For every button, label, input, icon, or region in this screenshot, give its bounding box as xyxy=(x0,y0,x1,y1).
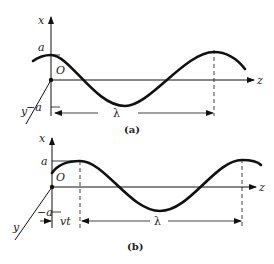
diagram-svg: x z y O a −a λ (a) x z y xyxy=(0,0,274,264)
wavelength-label-b: λ xyxy=(154,215,161,228)
z-axis-label-b: z xyxy=(258,181,265,194)
origin-label-a: O xyxy=(56,64,65,77)
origin-label-b: O xyxy=(56,171,65,184)
x-axis-label-a: x xyxy=(38,14,45,27)
wavelength-label-a: λ xyxy=(113,107,120,120)
z-axis-label-a: z xyxy=(256,74,263,87)
caption-a: (a) xyxy=(124,124,140,135)
shift-label-b: vt xyxy=(60,215,71,228)
wave-diagram: x z y O a −a λ (a) x z y xyxy=(0,0,274,264)
x-axis-label-b: x xyxy=(39,132,46,145)
wave-curve-b xyxy=(52,160,261,211)
amplitude-neg-label-b: −a xyxy=(37,206,53,219)
origin-dot-b xyxy=(50,185,54,189)
amplitude-pos-label-b: a xyxy=(41,155,48,168)
wave-curve-a xyxy=(33,52,245,106)
amplitude-neg-label-a: −a xyxy=(26,101,42,114)
caption-b: (b) xyxy=(127,241,143,252)
amplitude-pos-label-a: a xyxy=(38,41,45,54)
panel-a: x z y O a −a λ (a) xyxy=(20,14,263,135)
panel-b: x z y O a −a vt λ (b) xyxy=(12,132,265,252)
y-axis-label-b: y xyxy=(12,221,20,234)
origin-dot-a xyxy=(49,78,53,82)
